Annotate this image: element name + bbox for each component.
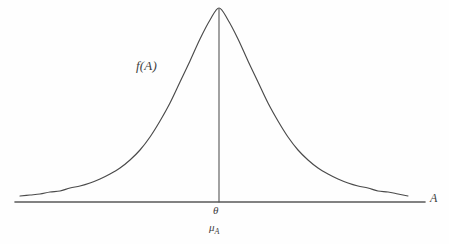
bell-curve-figure: f(A) θ μA A <box>0 0 449 244</box>
plot-canvas <box>0 0 449 244</box>
curve-label-fa: f(A) <box>136 59 157 72</box>
x-axis-theta-label: θ <box>213 205 218 216</box>
mu-subscript: A <box>215 227 220 236</box>
x-axis-mu-label: μA <box>209 222 219 236</box>
density-curve <box>20 8 408 196</box>
x-axis-name-label: A <box>430 192 437 204</box>
